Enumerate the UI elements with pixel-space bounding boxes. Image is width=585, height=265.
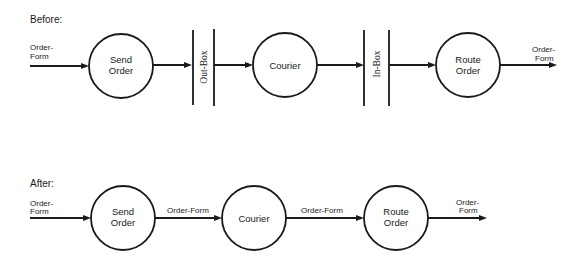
before-store-in-box: In-Box xyxy=(364,30,389,106)
before-output-flow-label-line1: Order- xyxy=(532,45,555,54)
flow-label: Order-Form xyxy=(167,206,209,215)
before-flow-send-to-outbox xyxy=(153,62,192,68)
node-label-line1: Route xyxy=(383,206,408,217)
node-label-line2: Order xyxy=(384,217,408,228)
after-node-route-order: Route Order xyxy=(364,186,428,250)
node-label-line2: Order xyxy=(111,217,135,228)
node-label-line1: Courier xyxy=(238,213,269,224)
after-node-courier: Courier xyxy=(222,186,286,250)
before-flow-courier-to-inbox xyxy=(317,62,364,68)
store-label: Out-Box xyxy=(199,50,209,84)
node-label-line1: Courier xyxy=(269,60,300,71)
store-label: In-Box xyxy=(372,50,382,77)
after-node-send-order: Send Order xyxy=(91,186,155,250)
arrowhead-icon xyxy=(356,215,364,221)
before-flow-outbox-to-courier xyxy=(214,62,253,68)
before-output-flow-label-line2: Form xyxy=(535,54,554,63)
before-section: Before: Order- Form Send Order Out-Box xyxy=(30,14,557,106)
before-input-flow-label-line2: Form xyxy=(30,52,49,61)
arrowhead-icon xyxy=(184,62,192,68)
after-heading: After: xyxy=(30,178,54,189)
arrowhead-icon xyxy=(356,62,364,68)
after-input-flow-label-line2: Form xyxy=(30,207,49,216)
before-input-flow-label-line1: Order- xyxy=(30,43,53,52)
after-input-flow: Order- Form xyxy=(30,199,91,221)
before-output-flow: Order- Form xyxy=(500,45,557,68)
node-label-line1: Send xyxy=(110,54,132,65)
node-label-line2: Order xyxy=(456,65,480,76)
node-label-line1: Send xyxy=(112,206,134,217)
node-label-line1: Route xyxy=(455,54,480,65)
after-output-flow: Order- Form xyxy=(428,198,487,221)
after-section: After: Order- Form Send Order Order-Form… xyxy=(30,178,487,250)
before-store-out-box: Out-Box xyxy=(193,29,214,106)
before-node-courier: Courier xyxy=(253,33,317,97)
flow-label: Order-Form xyxy=(301,206,343,215)
before-flow-inbox-to-route xyxy=(389,62,436,68)
after-flow-courier-to-route: Order-Form xyxy=(286,206,364,221)
arrowhead-icon xyxy=(428,62,436,68)
after-output-flow-label-line2: Form xyxy=(459,206,478,215)
arrowhead-icon xyxy=(214,215,222,221)
dataflow-diagram: Before: Order- Form Send Order Out-Box xyxy=(0,0,585,265)
before-node-send-order: Send Order xyxy=(89,34,153,98)
arrowhead-icon xyxy=(479,215,487,221)
arrowhead-icon xyxy=(245,62,253,68)
arrowhead-icon xyxy=(83,215,91,221)
before-node-route-order: Route Order xyxy=(436,33,500,97)
node-label-line2: Order xyxy=(109,65,133,76)
before-input-flow: Order- Form xyxy=(30,43,89,69)
before-heading: Before: xyxy=(30,14,62,25)
after-flow-send-to-courier: Order-Form xyxy=(155,206,222,221)
arrowhead-icon xyxy=(81,63,89,69)
